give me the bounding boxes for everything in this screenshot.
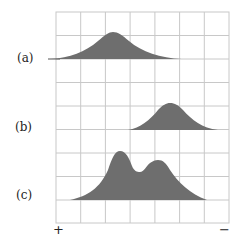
minus-sign: − xyxy=(219,222,230,237)
curve-a xyxy=(50,32,182,59)
label-c: (c) xyxy=(16,188,32,202)
plus-sign: + xyxy=(53,222,64,237)
distribution-figure: (a) (b) (c) + − xyxy=(0,0,240,244)
label-b: (b) xyxy=(15,120,32,134)
curve-c xyxy=(70,151,207,200)
label-a: (a) xyxy=(17,51,34,65)
